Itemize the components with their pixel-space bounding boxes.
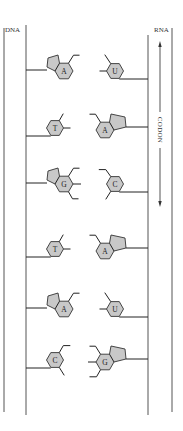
dna-base-a: A bbox=[26, 293, 80, 317]
rna-label: RNA bbox=[154, 26, 169, 34]
rna-base-label: U bbox=[112, 305, 118, 314]
codon-label: CODON bbox=[156, 117, 164, 143]
dna-label: DNA bbox=[5, 26, 20, 34]
rna-base-u: U bbox=[100, 293, 149, 317]
rna-base-g: G bbox=[88, 346, 148, 377]
rna-base-label: C bbox=[112, 180, 117, 189]
dna-base-label: G bbox=[61, 180, 67, 189]
dna-base-label: T bbox=[53, 245, 58, 254]
dna-base-t: T bbox=[26, 114, 71, 136]
rna-base-label: G bbox=[102, 358, 108, 367]
base-pairs: AUTAGCTAAUCG bbox=[26, 55, 148, 377]
rna-base-label: U bbox=[112, 67, 118, 76]
dna-base-label: A bbox=[61, 305, 67, 314]
dna-base-c: C bbox=[26, 346, 70, 376]
rna-base-a: A bbox=[90, 235, 149, 259]
dna-base-t: T bbox=[26, 235, 71, 257]
dna-base-a: A bbox=[26, 55, 80, 79]
rna-base-u: U bbox=[100, 55, 149, 79]
dna-base-label: A bbox=[61, 67, 67, 76]
dna-base-g: G bbox=[26, 168, 81, 199]
rna-base-label: A bbox=[102, 126, 108, 135]
codon-arrow: CODON bbox=[156, 41, 164, 207]
dna-base-label: C bbox=[52, 356, 57, 365]
dna-base-label: T bbox=[53, 124, 58, 133]
dna-rna-transcription-diagram: DNA RNA CODON AUTAGCTAAUCG bbox=[0, 0, 183, 431]
rna-base-a: A bbox=[90, 114, 149, 138]
rna-base-label: A bbox=[102, 247, 108, 256]
rna-base-c: C bbox=[99, 170, 148, 200]
